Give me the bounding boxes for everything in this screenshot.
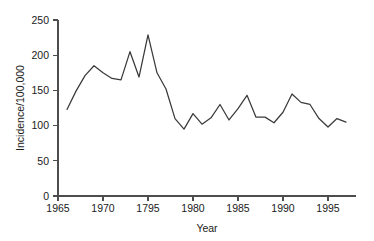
incidence-line-chart: 250 200 150 100 50 0 Incidence/100,000 <box>0 0 374 241</box>
x-tick-label-1980: 1980 <box>181 202 205 214</box>
y-tick-label-250: 250 <box>31 14 49 26</box>
y-axis-title: Incidence/100,000 <box>14 65 26 151</box>
x-axis-title: Year <box>196 222 218 234</box>
y-axis-tick-labels: 250 200 150 100 50 0 <box>31 14 49 202</box>
x-tick-label-1990: 1990 <box>271 202 295 214</box>
x-axis-tick-labels: 1965 1970 1795 1980 1985 1990 1995 <box>46 202 340 214</box>
y-tick-label-150: 150 <box>31 84 49 96</box>
chart-canvas: 250 200 150 100 50 0 Incidence/100,000 <box>0 0 374 241</box>
y-axis: 250 200 150 100 50 0 Incidence/100,000 <box>14 14 58 202</box>
incidence-series-line <box>67 35 346 129</box>
x-axis-ticks <box>58 196 328 201</box>
y-axis-ticks <box>53 20 58 196</box>
x-tick-label-1970: 1970 <box>91 202 115 214</box>
y-tick-label-200: 200 <box>31 49 49 61</box>
y-tick-label-100: 100 <box>31 119 49 131</box>
x-tick-label-1995: 1995 <box>316 202 340 214</box>
y-tick-label-50: 50 <box>37 155 49 167</box>
x-tick-label-1985: 1985 <box>226 202 250 214</box>
x-tick-label-1965: 1965 <box>46 202 70 214</box>
x-tick-label-1975: 1795 <box>136 202 160 214</box>
y-tick-label-0: 0 <box>43 190 49 202</box>
x-axis: 1965 1970 1795 1980 1985 1990 1995 Year <box>46 196 356 234</box>
